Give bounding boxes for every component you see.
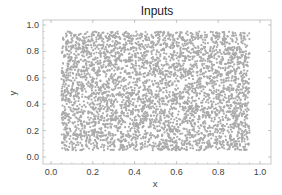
x-tick-label: 0.0 — [45, 167, 58, 177]
y-tick-label: 0.0 — [26, 152, 39, 162]
x-tick-label: 1.0 — [254, 167, 267, 177]
plot-area: 0.00.20.40.60.81.0 0.00.20.40.60.81.0 — [26, 20, 271, 177]
y-tick-label: 0.2 — [26, 126, 39, 136]
x-axis-label: x — [153, 178, 158, 189]
data-points — [60, 31, 250, 152]
chart-title: Inputs — [141, 4, 174, 18]
y-axis-label: y — [7, 90, 18, 95]
scatter-chart: Inputs 0.00.20.40.60.81.0 0.00.20.40.60.… — [0, 0, 282, 195]
y-tick-label: 1.0 — [26, 20, 39, 30]
y-tick-label: 0.4 — [26, 99, 39, 109]
x-tick-label: 0.6 — [170, 167, 183, 177]
x-tick-label: 0.8 — [212, 167, 225, 177]
y-tick-label: 0.6 — [26, 73, 39, 83]
x-tick-label: 0.2 — [87, 167, 100, 177]
y-tick-label: 0.8 — [26, 46, 39, 56]
x-tick-label: 0.4 — [128, 167, 141, 177]
